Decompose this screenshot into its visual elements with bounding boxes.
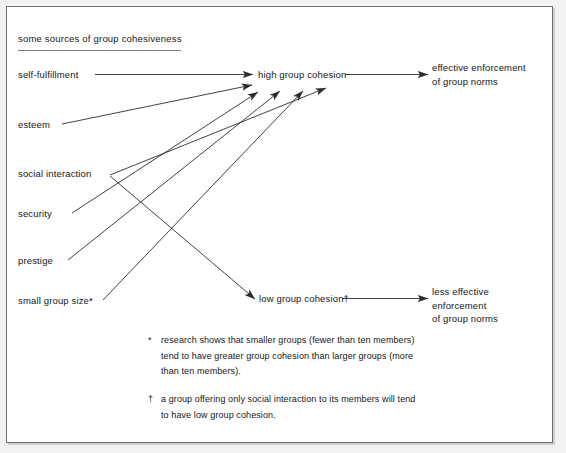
arrow-esteem [62,85,252,124]
footnote-1-marker: * [148,333,152,349]
outcome-low-group-cohesion: low group cohesion† [259,292,349,306]
footnote-2-marker: † [148,392,153,408]
diagram-figure: some sources of group cohesiveness self-… [0,0,566,453]
source-label-small-group-size: small group size* [18,294,93,308]
source-label-security: security [18,207,52,221]
arrow-social-interaction [110,176,255,299]
source-label-self-fulfillment: self-fulfillment [18,68,78,82]
outcome-effective-enforcement: effective enforcement of group norms [432,61,526,88]
arrow-secondary-converge [110,88,326,175]
outcome-high-group-cohesion: high group cohesion [258,68,346,82]
footnote-1-text: research shows that smaller groups (fewe… [161,333,541,380]
source-label-esteem: esteem [18,118,50,132]
outcome-less-effective-enforcement: less effective enforcement of group norm… [432,285,498,326]
footnote-2-text: a group offering only social interaction… [161,392,541,423]
source-label-social-interaction: social interaction [18,167,91,181]
source-label-prestige: prestige [18,254,53,268]
